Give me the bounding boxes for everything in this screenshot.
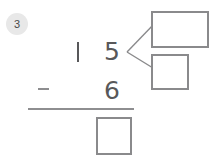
worksheet-canvas: 3 1 5 6 — [0, 0, 211, 164]
connector-lower-arm — [127, 52, 153, 68]
callout-bottom-box[interactable] — [151, 54, 189, 90]
minuend-tens-digit — [77, 42, 79, 62]
minus-operator-icon — [38, 88, 49, 90]
callout-top-box[interactable] — [151, 11, 209, 48]
step-number-badge: 3 — [6, 13, 28, 35]
answer-input-box[interactable] — [96, 117, 132, 155]
minuend-ones-digit: 5 — [103, 39, 121, 64]
equation-rule — [28, 108, 134, 110]
subtrahend-ones-digit: 6 — [103, 78, 121, 103]
